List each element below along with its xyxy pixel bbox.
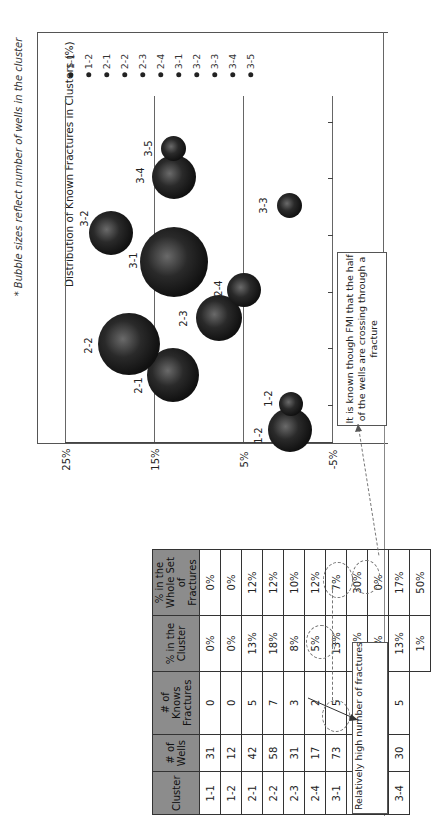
gridline-5 <box>243 96 244 443</box>
arrow-icon <box>300 690 370 730</box>
bubble-label: 2-2 <box>83 337 94 353</box>
table-row: 2-142513%12% <box>242 550 263 815</box>
cell: 1% <box>410 616 431 672</box>
cell: 17% <box>389 550 410 616</box>
bubble-label: 1-2 <box>263 390 274 406</box>
axis-tick <box>328 348 333 349</box>
cell: 2-3 <box>284 772 305 815</box>
table-header-row: Cluster # of Wells # of Knows Fractures … <box>153 550 200 815</box>
legend-label: 3-1 <box>173 54 184 70</box>
cell: 7 <box>263 671 284 734</box>
table-row: 1-13100%0% <box>200 550 221 815</box>
cell: 5 <box>242 671 263 734</box>
axis-tick <box>328 235 333 236</box>
cell: 2-2 <box>263 772 284 815</box>
legend-dot-icon <box>212 72 217 77</box>
legend-item-3-3: 3-3 <box>209 54 220 78</box>
cell: 3-4 <box>389 772 410 815</box>
table-row: 2-258718%12% <box>263 550 284 815</box>
chart-frame-right-edge <box>383 32 384 282</box>
gridline-25 <box>65 96 66 443</box>
cell: 30 <box>389 734 410 772</box>
dashed-arrow-icon <box>355 420 385 560</box>
cell: 2-1 <box>242 772 263 815</box>
cell: 50% <box>410 550 431 616</box>
legend-label: 3-2 <box>191 54 202 70</box>
cell: 18% <box>263 616 284 672</box>
legend-label: 3-4 <box>227 54 238 70</box>
table-row: 2-41725%12% <box>305 550 326 815</box>
cell: 0% <box>200 550 221 616</box>
bubble-label: 2-4 <box>213 280 224 296</box>
cell: 42 <box>242 734 263 772</box>
cluster-table-container: Cluster # of Wells # of Knows Fractures … <box>152 549 431 815</box>
legend-label: 1-1 <box>65 54 76 70</box>
cell: 0 <box>221 671 242 734</box>
legend-dot-icon <box>194 72 199 77</box>
legend-item-3-2: 3-2 <box>191 54 202 78</box>
cell: 0 <box>200 671 221 734</box>
bubble-3-5 <box>161 136 186 161</box>
table-row: 1%50% <box>410 550 431 815</box>
cell: 5 <box>389 671 410 734</box>
tick-label-5: 5% <box>239 445 250 475</box>
bubble-label: 1-2 <box>253 427 264 443</box>
cell: 2-4 <box>305 772 326 815</box>
legend-label: 2-1 <box>101 54 112 70</box>
highlight-circle <box>352 560 380 594</box>
legend-item-1-2: 1-2 <box>83 54 94 78</box>
bubble-3-4 <box>152 155 196 199</box>
col-wells: # of Wells <box>153 734 200 772</box>
col-pct-cluster: % in the Cluster <box>153 616 200 672</box>
highlight-circle <box>323 562 353 598</box>
legend-label: 3-5 <box>245 54 256 70</box>
cell: 73 <box>326 734 347 772</box>
axis-tick <box>328 122 333 123</box>
cluster-table: Cluster # of Wells # of Knows Fractures … <box>152 549 431 815</box>
bubble-label: 3-4 <box>135 167 146 183</box>
table-row: 1-21200%0% <box>221 550 242 815</box>
col-known-fractures: # of Knows Fractures <box>153 671 200 734</box>
legend-item-3-4: 3-4 <box>227 54 238 78</box>
cell: 1-2 <box>221 772 242 815</box>
legend-dot-icon <box>140 72 145 77</box>
axis-tick <box>328 405 333 406</box>
legend-dot-icon <box>176 72 181 77</box>
legend-label: 3-3 <box>209 54 220 70</box>
cell: 0% <box>221 616 242 672</box>
axis-tick <box>328 178 333 179</box>
cell: 17 <box>305 734 326 772</box>
cell: 0% <box>221 550 242 616</box>
cell: 10% <box>284 550 305 616</box>
legend-item-2-1: 2-1 <box>101 54 112 78</box>
tick-label-15: 15% <box>150 445 161 475</box>
tick-label-25: 25% <box>61 445 72 475</box>
bubble-label: 3-3 <box>258 197 269 213</box>
legend-item-3-1: 3-1 <box>173 54 184 78</box>
legend-dot-icon <box>104 72 109 77</box>
footnote: * Bubble sizes reflect number of wells i… <box>13 17 27 317</box>
table-row: 3-430513%17% <box>389 550 410 815</box>
bubble-2-2 <box>98 313 160 375</box>
bubble-2-4 <box>227 273 261 307</box>
cell: 31 <box>200 734 221 772</box>
legend-label: 2-3 <box>137 54 148 70</box>
legend-dot-icon <box>68 72 73 77</box>
fmi-callout: It is known though FMI that the half of … <box>337 252 387 426</box>
cell: 13% <box>242 616 263 672</box>
cell: 13% <box>389 616 410 672</box>
col-pct-whole: % in the Whole Set of Fractures <box>153 550 200 616</box>
legend-label: 1-2 <box>83 54 94 70</box>
legend-label: 2-4 <box>155 54 166 70</box>
table-row: 2-33138%10% <box>284 550 305 815</box>
cell: 58 <box>263 734 284 772</box>
bubble-label: 3-1 <box>128 252 139 268</box>
legend-dot-icon <box>248 72 253 77</box>
col-cluster: Cluster <box>153 772 200 815</box>
axis-tick <box>328 292 333 293</box>
cell: 0% <box>200 616 221 672</box>
bubble-label: 2-3 <box>178 310 189 326</box>
legend-dot-icon <box>230 72 235 77</box>
legend-item-2-4: 2-4 <box>155 54 166 78</box>
bubble-1-2 <box>279 392 303 416</box>
